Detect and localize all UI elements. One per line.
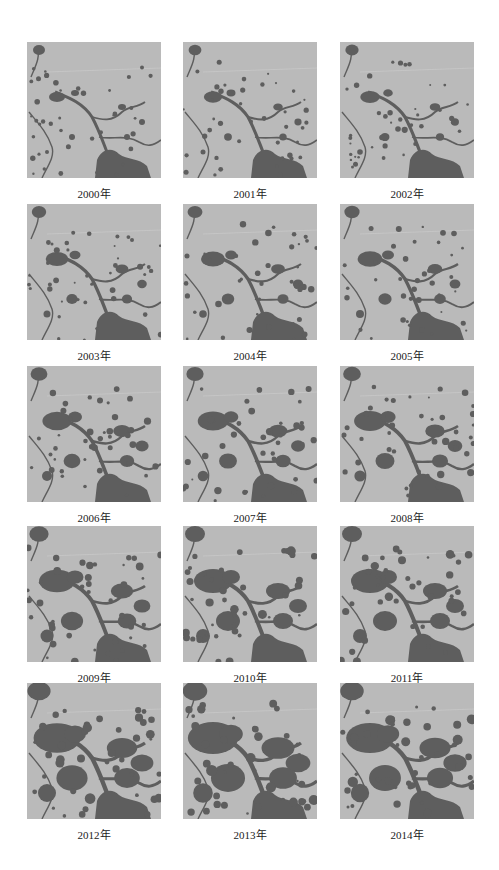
map-image xyxy=(27,42,161,178)
year-label: 2006年 xyxy=(27,509,161,525)
map-image xyxy=(183,42,317,178)
map-panel-2001: 2001年 xyxy=(183,42,317,178)
map-panel-2005: 2005年 xyxy=(340,204,474,340)
year-label: 2004年 xyxy=(183,347,317,363)
map-panel-2007: 2007年 xyxy=(183,366,317,502)
year-label: 2008年 xyxy=(340,509,474,525)
year-label: 2014年 xyxy=(340,826,474,842)
map-image xyxy=(27,526,161,662)
map-image xyxy=(340,204,474,340)
map-panel-2003: 2003年 xyxy=(27,204,161,340)
map-panel-2014: 2014年 xyxy=(340,683,474,819)
map-panel-2000: 2000年 xyxy=(27,42,161,178)
map-image xyxy=(183,526,317,662)
year-label: 2002年 xyxy=(340,185,474,201)
map-image xyxy=(340,42,474,178)
map-panel-2011: 2011年 xyxy=(340,526,474,662)
map-panel-2002: 2002年 xyxy=(340,42,474,178)
map-image xyxy=(27,366,161,502)
map-image xyxy=(340,526,474,662)
map-panel-2009: 2009年 xyxy=(27,526,161,662)
map-panel-2010: 2010年 xyxy=(183,526,317,662)
map-image xyxy=(183,204,317,340)
map-image xyxy=(27,683,161,819)
year-label: 2013年 xyxy=(183,826,317,842)
map-panel-2008: 2008年 xyxy=(340,366,474,502)
year-label: 2000年 xyxy=(27,185,161,201)
map-image xyxy=(340,366,474,502)
year-label: 2012年 xyxy=(27,826,161,842)
map-panel-2013: 2013年 xyxy=(183,683,317,819)
year-label: 2005年 xyxy=(340,347,474,363)
map-image xyxy=(340,683,474,819)
year-label: 2001年 xyxy=(183,185,317,201)
year-label: 2003年 xyxy=(27,347,161,363)
map-panel-2004: 2004年 xyxy=(183,204,317,340)
map-image xyxy=(183,366,317,502)
map-image xyxy=(183,683,317,819)
map-panel-2006: 2006年 xyxy=(27,366,161,502)
year-label: 2007年 xyxy=(183,509,317,525)
map-image xyxy=(27,204,161,340)
map-panel-2012: 2012年 xyxy=(27,683,161,819)
